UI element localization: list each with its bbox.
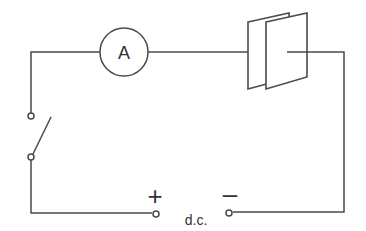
negative-terminal xyxy=(226,210,232,216)
ammeter-label: A xyxy=(118,43,130,63)
wire-bottom-left xyxy=(31,160,152,213)
supply-label: d.c. xyxy=(185,212,208,228)
switch-lever xyxy=(33,117,51,154)
front-plate xyxy=(266,13,307,89)
wire-top-left xyxy=(31,52,100,113)
negative-sign: – xyxy=(223,179,238,209)
positive-sign: + xyxy=(147,181,162,211)
positive-terminal xyxy=(153,211,159,217)
circuit-diagram: A + – d.c. xyxy=(0,0,366,231)
switch-terminal-top xyxy=(28,113,34,119)
circuit-svg: A + – d.c. xyxy=(0,0,366,231)
switch-terminal-bottom xyxy=(28,154,34,160)
